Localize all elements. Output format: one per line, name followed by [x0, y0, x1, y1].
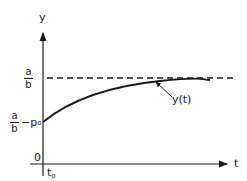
initial-denominator: b — [11, 124, 17, 134]
asymptote-label: a b — [24, 67, 33, 90]
curve-label-leader — [156, 82, 172, 97]
x-axis-label: t — [234, 158, 238, 169]
asymptote-denominator: b — [25, 80, 31, 90]
y-axis-label: y — [39, 12, 46, 23]
initial-value-label: a b −po — [10, 111, 42, 134]
curve-label: y(t) — [172, 94, 191, 105]
t0-subscript: o — [51, 172, 55, 180]
origin-label: 0 — [34, 152, 41, 163]
initial-numerator: a — [11, 111, 17, 121]
initial-suffix: −p — [21, 116, 37, 129]
initial-subscript: o — [37, 119, 41, 127]
asymptote-numerator: a — [25, 67, 31, 77]
t0-label: to — [47, 167, 56, 181]
initial-fraction: a b — [10, 111, 19, 134]
